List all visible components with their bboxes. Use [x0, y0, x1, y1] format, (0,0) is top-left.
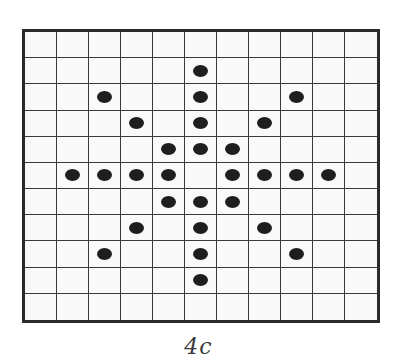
- grid-cell: [25, 137, 57, 163]
- grid-cell: [153, 215, 185, 241]
- grid-cell: [217, 137, 249, 163]
- dot-marker: [129, 169, 144, 181]
- grid-cell: [249, 111, 281, 137]
- dot-marker: [289, 91, 304, 103]
- grid-cell: [57, 163, 89, 189]
- grid-cell: [121, 58, 153, 84]
- figure-caption: 4c: [0, 334, 397, 359]
- grid-cell: [281, 215, 313, 241]
- grid-cell: [313, 32, 345, 58]
- grid-cell: [217, 84, 249, 110]
- grid-cell: [345, 189, 377, 215]
- grid-cell: [313, 294, 345, 320]
- dot-marker: [193, 248, 208, 260]
- grid-cell: [25, 215, 57, 241]
- grid-cell: [345, 215, 377, 241]
- grid-cell: [89, 32, 121, 58]
- grid-cell: [153, 84, 185, 110]
- grid-cell: [249, 241, 281, 267]
- grid-cell: [185, 268, 217, 294]
- grid-cell: [281, 163, 313, 189]
- grid-cell: [25, 163, 57, 189]
- grid-cell: [25, 241, 57, 267]
- grid-cell: [121, 32, 153, 58]
- grid-cell: [57, 32, 89, 58]
- dot-marker: [257, 222, 272, 234]
- dot-marker: [193, 196, 208, 208]
- dot-marker: [225, 196, 240, 208]
- grid-cell: [153, 32, 185, 58]
- grid-cell: [57, 241, 89, 267]
- grid-cell: [345, 163, 377, 189]
- grid-cell: [345, 241, 377, 267]
- grid-cell: [249, 137, 281, 163]
- grid-cell: [313, 137, 345, 163]
- grid-cell: [185, 137, 217, 163]
- grid-cell: [121, 268, 153, 294]
- grid-cell: [313, 163, 345, 189]
- grid-cell: [57, 268, 89, 294]
- dot-marker: [129, 117, 144, 129]
- grid-cell: [281, 84, 313, 110]
- grid-cell: [281, 137, 313, 163]
- grid-cell: [89, 163, 121, 189]
- grid-cell: [89, 111, 121, 137]
- dot-marker: [257, 169, 272, 181]
- grid-cell: [57, 84, 89, 110]
- grid-cell: [217, 241, 249, 267]
- grid-cell: [153, 111, 185, 137]
- grid-cell: [57, 294, 89, 320]
- dot-marker: [193, 91, 208, 103]
- grid-cell: [121, 189, 153, 215]
- grid-cell: [345, 32, 377, 58]
- grid-cell: [57, 189, 89, 215]
- grid-cell: [313, 84, 345, 110]
- grid-cell: [313, 268, 345, 294]
- grid-cell: [217, 294, 249, 320]
- grid-cell: [249, 189, 281, 215]
- grid-cell: [345, 58, 377, 84]
- dot-marker: [289, 248, 304, 260]
- grid-cell: [153, 189, 185, 215]
- grid-cell: [25, 294, 57, 320]
- grid-cell: [25, 84, 57, 110]
- dot-marker: [161, 169, 176, 181]
- dot-pattern-grid: [22, 29, 380, 323]
- grid-cell: [217, 32, 249, 58]
- dot-marker: [161, 196, 176, 208]
- grid-cell: [345, 111, 377, 137]
- grid-cell: [217, 268, 249, 294]
- grid-cell: [121, 137, 153, 163]
- dot-marker: [193, 65, 208, 77]
- grid-cell: [153, 294, 185, 320]
- grid-cell: [25, 189, 57, 215]
- grid-cell: [249, 32, 281, 58]
- grid-cell: [249, 163, 281, 189]
- grid-cell: [121, 111, 153, 137]
- grid-cell: [217, 111, 249, 137]
- dot-marker: [65, 169, 80, 181]
- grid-cell: [217, 189, 249, 215]
- grid-cell: [185, 111, 217, 137]
- grid-cell: [281, 189, 313, 215]
- grid-cell: [153, 241, 185, 267]
- grid-cell: [185, 58, 217, 84]
- grid-cell: [185, 215, 217, 241]
- grid-cell: [313, 215, 345, 241]
- grid-cell: [281, 58, 313, 84]
- grid-cell: [345, 268, 377, 294]
- grid-cell: [25, 268, 57, 294]
- dot-marker: [193, 222, 208, 234]
- grid-cell: [249, 84, 281, 110]
- grid-cell: [153, 137, 185, 163]
- grid-cell: [153, 163, 185, 189]
- grid-cell: [249, 294, 281, 320]
- grid-cell: [249, 268, 281, 294]
- grid-cell: [345, 84, 377, 110]
- grid-cell: [217, 58, 249, 84]
- dot-marker: [97, 169, 112, 181]
- dot-marker: [193, 274, 208, 286]
- grid-cell: [281, 111, 313, 137]
- grid-cell: [281, 241, 313, 267]
- dot-marker: [97, 91, 112, 103]
